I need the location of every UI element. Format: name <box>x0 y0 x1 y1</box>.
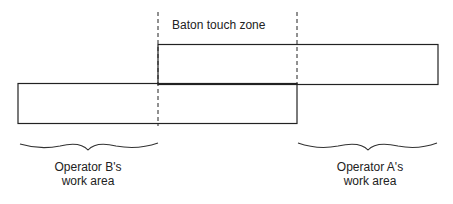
operator-b-label: Operator B's work area <box>38 160 138 188</box>
operator-a-label-line1: Operator A's <box>320 160 420 174</box>
baton-touch-zone-label: Baton touch zone <box>172 18 265 32</box>
operator-b-label-line1: Operator B's <box>38 160 138 174</box>
operator-a-bar <box>158 45 438 85</box>
operator-b-brace <box>20 143 158 150</box>
operator-b-label-line2: work area <box>38 174 138 188</box>
operator-a-label: Operator A's work area <box>320 160 420 188</box>
operator-a-label-line2: work area <box>320 174 420 188</box>
operator-a-brace <box>298 143 437 150</box>
